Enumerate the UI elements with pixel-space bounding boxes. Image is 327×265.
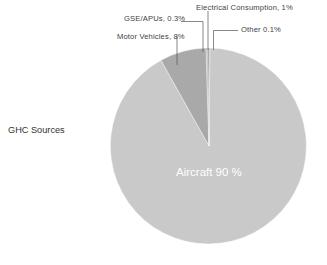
slice-label-other: Other 0.1% <box>241 26 281 34</box>
chart-category-title: GHC Sources <box>8 126 65 135</box>
leader-line-other <box>214 31 239 51</box>
slice-label-gse-apus: GSE/APUs, 0.3% <box>124 15 185 23</box>
pie-chart-figure: Electrical Consumption, 1% GSE/APUs, 0.3… <box>0 0 327 265</box>
slice-label-motor-vehicles: Motor Vehicles, 8% <box>117 33 185 41</box>
slice-label-electrical-consumption: Electrical Consumption, 1% <box>196 4 293 12</box>
slice-label-aircraft: Aircraft 90 % <box>176 167 242 179</box>
